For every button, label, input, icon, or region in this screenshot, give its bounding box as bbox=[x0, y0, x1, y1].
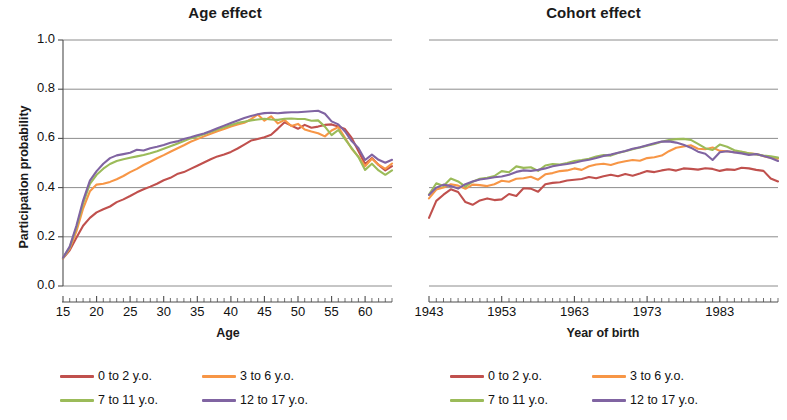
x-axis-tick-label: 1953 bbox=[480, 304, 524, 319]
legend-item-7-to-11: 7 to 11 y.o. bbox=[60, 394, 188, 407]
series-line-2 bbox=[429, 145, 778, 198]
x-axis-tick-label: 60 bbox=[343, 304, 387, 319]
legend-label: 12 to 17 y.o. bbox=[240, 394, 308, 407]
panel-cohort-effect: Cohort effect Year of birth 0 to 2 y.o. … bbox=[400, 0, 787, 420]
y-axis-tick-label: 0.4 bbox=[15, 179, 55, 194]
x-axis-tick-label: 1943 bbox=[407, 304, 451, 319]
legend-swatch-icon bbox=[450, 375, 484, 378]
panel-age-effect: Age effect Participation probability Age… bbox=[0, 0, 400, 420]
legend-label: 12 to 17 y.o. bbox=[630, 394, 698, 407]
figure-age-cohort-effects: Age effect Participation probability Age… bbox=[0, 0, 787, 420]
legend-swatch-icon bbox=[202, 399, 236, 402]
legend-item-0-to-2: 0 to 2 y.o. bbox=[450, 370, 578, 383]
x-axis-tick-label: 1983 bbox=[698, 304, 742, 319]
legend-row: 0 to 2 y.o. 3 to 6 y.o. bbox=[60, 364, 342, 388]
y-axis-tick-label: 1.0 bbox=[15, 31, 55, 46]
legend-item-12-to-17: 12 to 17 y.o. bbox=[202, 394, 342, 407]
legend-label: 0 to 2 y.o. bbox=[98, 370, 152, 383]
legend-swatch-icon bbox=[202, 375, 236, 378]
x-axis-tick-label: 1973 bbox=[625, 304, 669, 319]
y-axis-tick-label: 0.2 bbox=[15, 228, 55, 243]
legend-label: 0 to 2 y.o. bbox=[488, 370, 542, 383]
y-axis-tick-label: 0.8 bbox=[15, 80, 55, 95]
legend-label: 7 to 11 y.o. bbox=[488, 394, 548, 407]
x-axis-label-age: Age bbox=[63, 326, 393, 340]
legend-label: 3 to 6 y.o. bbox=[630, 370, 684, 383]
series-line-1 bbox=[63, 122, 392, 258]
series-line-4 bbox=[429, 141, 778, 195]
plot-area-cohort bbox=[400, 0, 787, 330]
y-axis-tick-label: 0.6 bbox=[15, 129, 55, 144]
legend-item-7-to-11: 7 to 11 y.o. bbox=[450, 394, 578, 407]
legend-item-12-to-17: 12 to 17 y.o. bbox=[592, 394, 732, 407]
legend-row: 7 to 11 y.o. 12 to 17 y.o. bbox=[450, 388, 732, 412]
legend-label: 3 to 6 y.o. bbox=[240, 370, 294, 383]
plot-area-age bbox=[0, 0, 400, 330]
legend-swatch-icon bbox=[450, 399, 484, 402]
legend-swatch-icon bbox=[592, 399, 626, 402]
legend-item-0-to-2: 0 to 2 y.o. bbox=[60, 370, 188, 383]
legend-swatch-icon bbox=[60, 399, 94, 402]
legend-age: 0 to 2 y.o. 3 to 6 y.o. 7 to 11 y.o. 12 … bbox=[60, 364, 342, 412]
legend-cohort: 0 to 2 y.o. 3 to 6 y.o. 7 to 11 y.o. 12 … bbox=[450, 364, 732, 412]
legend-swatch-icon bbox=[60, 375, 94, 378]
legend-row: 0 to 2 y.o. 3 to 6 y.o. bbox=[450, 364, 732, 388]
series-line-1 bbox=[429, 168, 778, 218]
legend-item-3-to-6: 3 to 6 y.o. bbox=[592, 370, 732, 383]
legend-item-3-to-6: 3 to 6 y.o. bbox=[202, 370, 342, 383]
x-axis-label-cohort: Year of birth bbox=[429, 326, 777, 340]
x-axis-tick-label: 1963 bbox=[552, 304, 596, 319]
legend-swatch-icon bbox=[592, 375, 626, 378]
y-axis-tick-label: 0.0 bbox=[15, 277, 55, 292]
legend-row: 7 to 11 y.o. 12 to 17 y.o. bbox=[60, 388, 342, 412]
legend-label: 7 to 11 y.o. bbox=[98, 394, 158, 407]
